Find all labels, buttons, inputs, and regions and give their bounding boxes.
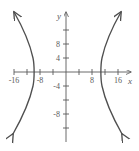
graph-figure: ) bbox=[0, 0, 139, 151]
y-axis-label: y bbox=[56, 11, 61, 21]
x-tick-label-neg16: -16 bbox=[9, 76, 20, 85]
hyperbola-left-branch bbox=[13, 12, 34, 134]
y-tick-label-8: 8 bbox=[56, 40, 60, 49]
x-tick-label-neg8: -8 bbox=[37, 76, 44, 85]
x-axis-label: x bbox=[127, 76, 132, 86]
x-tick-label-16: 16 bbox=[114, 76, 122, 85]
y-tick-label-4: 4 bbox=[56, 54, 60, 63]
y-tick-label-neg4: -4 bbox=[53, 82, 60, 91]
coordinate-plane-svg: -16 -8 8 16 8 4 -4 -8 x y bbox=[0, 0, 139, 151]
y-tick-label-neg8: -8 bbox=[53, 110, 60, 119]
x-tick-label-8: 8 bbox=[90, 76, 94, 85]
hyperbola-right-branch bbox=[101, 12, 122, 134]
